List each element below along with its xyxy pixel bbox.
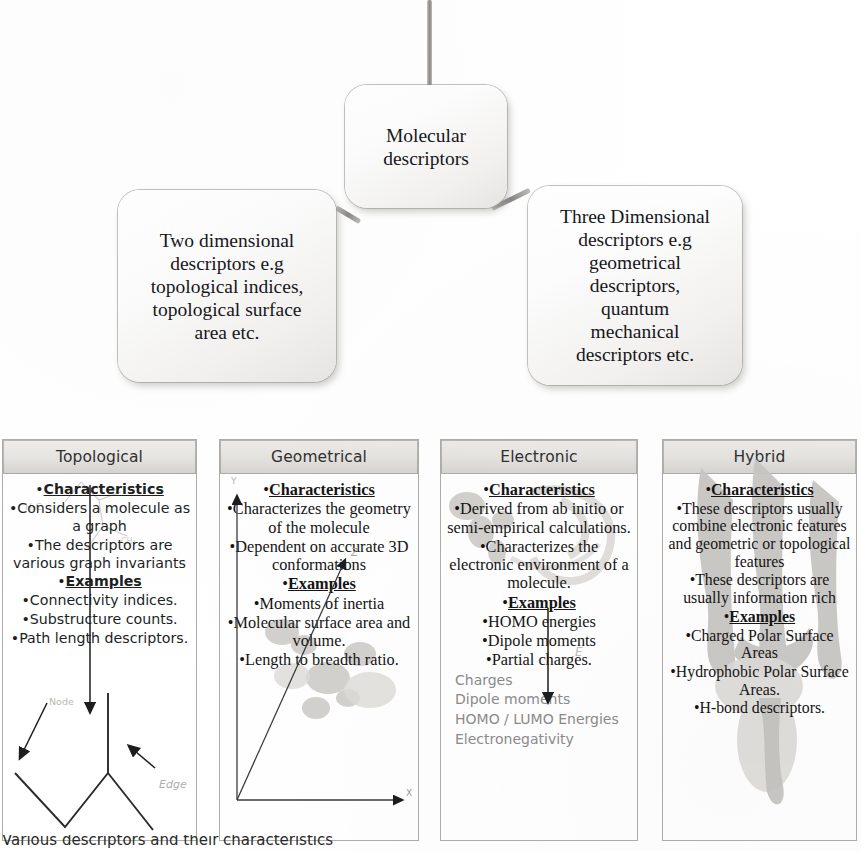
column-electronic-title: Electronic bbox=[500, 448, 577, 466]
list-item: Charges bbox=[455, 671, 632, 691]
connector-to-2d bbox=[335, 205, 362, 224]
column-electronic-body: •Characteristics •Derived from ab initio… bbox=[441, 474, 637, 750]
list-item: •Substructure counts. bbox=[8, 611, 191, 629]
list-item: •Length to breadth ratio. bbox=[225, 651, 413, 669]
column-topological-header: Topological bbox=[3, 440, 196, 474]
node-three-dimensional-descriptors: Three Dimensional descriptors e.g geomet… bbox=[528, 186, 742, 385]
list-item: •Characterizes the geometry of the molec… bbox=[225, 500, 413, 537]
node-two-dimensional-descriptors-label: Two dimensional descriptors e.g topologi… bbox=[141, 229, 314, 344]
list-item: •These descriptors are usually informati… bbox=[668, 571, 851, 606]
column-electronic-header: Electronic bbox=[441, 440, 637, 474]
list-item: •Characteristics bbox=[225, 481, 413, 499]
geometrical-list: •Characteristics •Characterizes the geom… bbox=[225, 481, 413, 670]
column-hybrid-title: Hybrid bbox=[734, 448, 786, 466]
column-geometrical-title: Geometrical bbox=[271, 448, 367, 466]
list-item: •Examples bbox=[8, 573, 191, 591]
list-item: •Characterizes the electronic environmen… bbox=[446, 538, 632, 593]
list-item: •Path length descriptors. bbox=[8, 630, 191, 648]
list-item: Electronegativity bbox=[455, 730, 632, 750]
electronic-ghost-list: Charges Dipole moments HOMO / LUMO Energ… bbox=[446, 671, 632, 751]
list-item: •The descriptors are various graph invar… bbox=[8, 537, 191, 573]
list-item: •Molecular surface area and volume. bbox=[225, 614, 413, 651]
figure-caption-text: Various descriptors and their characteri… bbox=[2, 835, 333, 848]
node-three-dimensional-descriptors-label: Three Dimensional descriptors e.g geomet… bbox=[550, 205, 720, 366]
list-item: •Characteristics bbox=[8, 481, 191, 499]
list-item: •HOMO energies bbox=[446, 613, 632, 631]
column-hybrid: Hybrid •Characteristics •These descripto… bbox=[663, 440, 856, 840]
svg-text:X: X bbox=[406, 788, 412, 798]
column-geometrical-body: •Characteristics •Characterizes the geom… bbox=[220, 474, 418, 670]
electronic-list: •Characteristics •Derived from ab initio… bbox=[446, 481, 632, 670]
list-item: •Examples bbox=[446, 594, 632, 612]
list-item: •Examples bbox=[668, 608, 851, 626]
list-item: Dipole moments bbox=[455, 690, 632, 710]
figure-caption: Various descriptors and their characteri… bbox=[0, 835, 861, 851]
list-item: •Considers a molecule as a graph bbox=[8, 500, 191, 536]
list-item: •Hydrophobic Polar Surface Areas. bbox=[668, 663, 851, 698]
column-topological-title: Topological bbox=[56, 448, 143, 466]
node-molecular-descriptors-label: Molecular descriptors bbox=[373, 124, 479, 170]
list-item: •Characteristics bbox=[446, 481, 632, 499]
column-hybrid-body: •Characteristics •These descriptors usua… bbox=[663, 474, 856, 717]
topological-list: •Characteristics •Considers a molecule a… bbox=[8, 481, 191, 648]
column-geometrical: Geometrical •Characteristics •Characteri… bbox=[220, 440, 418, 840]
list-item: •H-bond descriptors. bbox=[668, 699, 851, 717]
node-molecular-descriptors: Molecular descriptors bbox=[345, 85, 507, 208]
list-item: •Moments of inertia bbox=[225, 595, 413, 613]
list-item: •Partial charges. bbox=[446, 651, 632, 669]
list-item: •Derived from ab initio or semi-empirica… bbox=[446, 500, 632, 537]
list-item: •Examples bbox=[225, 575, 413, 593]
svg-text:Edge: Edge bbox=[159, 778, 187, 791]
node-two-dimensional-descriptors: Two dimensional descriptors e.g topologi… bbox=[118, 190, 336, 382]
list-item: •Charged Polar Surface Areas bbox=[668, 627, 851, 662]
column-topological-body: •Characteristics •Considers a molecule a… bbox=[3, 474, 196, 648]
connector-root-stem bbox=[427, 0, 432, 88]
list-item: HOMO / LUMO Energies bbox=[455, 710, 632, 730]
column-hybrid-header: Hybrid bbox=[663, 440, 856, 474]
list-item: •Connectivity indices. bbox=[8, 592, 191, 610]
list-item: •Dipole moments bbox=[446, 632, 632, 650]
svg-text:Node: Node bbox=[49, 696, 74, 707]
column-topological: Topological H₃C CH₃ •Characteristics •Co… bbox=[3, 440, 196, 840]
list-item: •Characteristics bbox=[668, 481, 851, 499]
hybrid-list: •Characteristics •These descriptors usua… bbox=[668, 481, 851, 717]
list-item: •These descriptors usually combine elect… bbox=[668, 500, 851, 571]
column-electronic: Electronic •Characteristics •Derived fro… bbox=[441, 440, 637, 840]
list-item: •Dependent on accurate 3D conformations bbox=[225, 538, 413, 575]
descriptor-columns: Topological H₃C CH₃ •Characteristics •Co… bbox=[0, 440, 861, 851]
molecular-descriptors-flowchart: Molecular descriptors Two dimensional de… bbox=[0, 0, 861, 430]
column-geometrical-header: Geometrical bbox=[220, 440, 418, 474]
